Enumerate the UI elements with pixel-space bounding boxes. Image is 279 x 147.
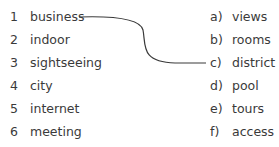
item-number: 2 xyxy=(10,30,22,50)
item-word: meeting xyxy=(30,122,82,142)
item-word: sightseeing xyxy=(30,53,102,73)
item-word: indoor xyxy=(30,30,70,50)
item-letter: a) xyxy=(210,7,230,27)
item-word: tours xyxy=(232,99,264,119)
item-word: city xyxy=(30,76,53,96)
item-word: access xyxy=(232,122,274,142)
item-word: pool xyxy=(232,76,259,96)
item-number: 4 xyxy=(10,76,22,96)
item-number: 6 xyxy=(10,122,22,142)
item-number: 3 xyxy=(10,53,22,73)
item-word: internet xyxy=(30,99,79,119)
item-number: 1 xyxy=(10,7,22,27)
item-word: district xyxy=(232,53,275,73)
item-letter: c) xyxy=(210,53,230,73)
item-word: rooms xyxy=(232,30,271,50)
item-letter: e) xyxy=(210,99,230,119)
item-word: business xyxy=(30,7,84,27)
item-letter: f) xyxy=(210,122,230,142)
item-number: 5 xyxy=(10,99,22,119)
item-letter: d) xyxy=(210,76,230,96)
item-word: views xyxy=(232,7,267,27)
item-letter: b) xyxy=(210,30,230,50)
